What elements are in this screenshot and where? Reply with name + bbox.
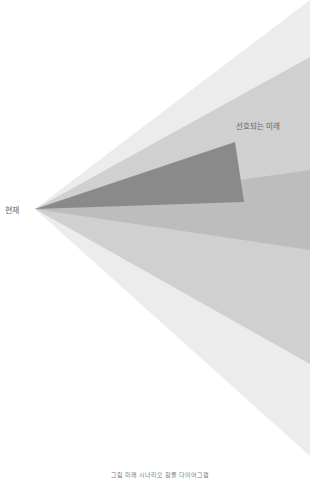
preferred-future-label: 선호되는 미래 — [236, 120, 280, 131]
present-label: 현재 — [5, 204, 19, 215]
figure-caption: 그림 미래 시나리오 원뿔 다이어그램 — [0, 470, 320, 479]
